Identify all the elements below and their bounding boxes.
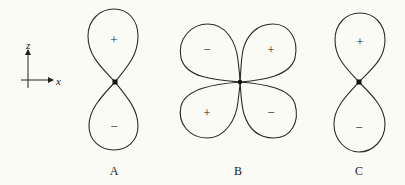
sign-b-lower-left: + — [203, 105, 210, 120]
sign-a-top: + — [110, 32, 117, 47]
lobe-a-bottom — [89, 82, 138, 150]
orbital-b: − + + − B — [180, 24, 296, 178]
axis-indicator: z x — [21, 39, 61, 88]
sign-b-upper-left: − — [203, 42, 210, 57]
orbital-c: + − C — [334, 13, 385, 178]
node-dot-a — [113, 80, 118, 85]
sign-b-upper-right: + — [267, 42, 274, 57]
sign-c-bottom: − — [355, 120, 362, 135]
orbital-diagram: z x + − A − + + − B + − C — [0, 0, 405, 185]
orbital-a: + − A — [88, 9, 138, 178]
x-axis-label: x — [55, 75, 61, 87]
node-dot-b — [238, 80, 243, 85]
sign-c-top: + — [356, 34, 363, 49]
label-a: A — [110, 164, 119, 178]
node-dot-c — [357, 80, 362, 85]
sign-a-bottom: − — [110, 119, 117, 134]
lobe-c-bottom — [334, 82, 385, 152]
label-c: C — [355, 164, 363, 178]
label-b: B — [234, 164, 242, 178]
z-axis-label: z — [25, 39, 31, 51]
sign-b-lower-right: − — [267, 105, 274, 120]
